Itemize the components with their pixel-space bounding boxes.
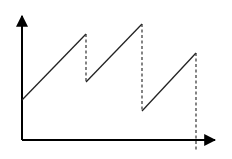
sawtooth-diagram <box>0 0 232 159</box>
rising-line <box>142 53 196 111</box>
sawtooth-segments <box>22 24 196 150</box>
rising-line <box>86 24 142 82</box>
rising-line <box>22 34 86 100</box>
diagram-canvas <box>0 0 232 159</box>
